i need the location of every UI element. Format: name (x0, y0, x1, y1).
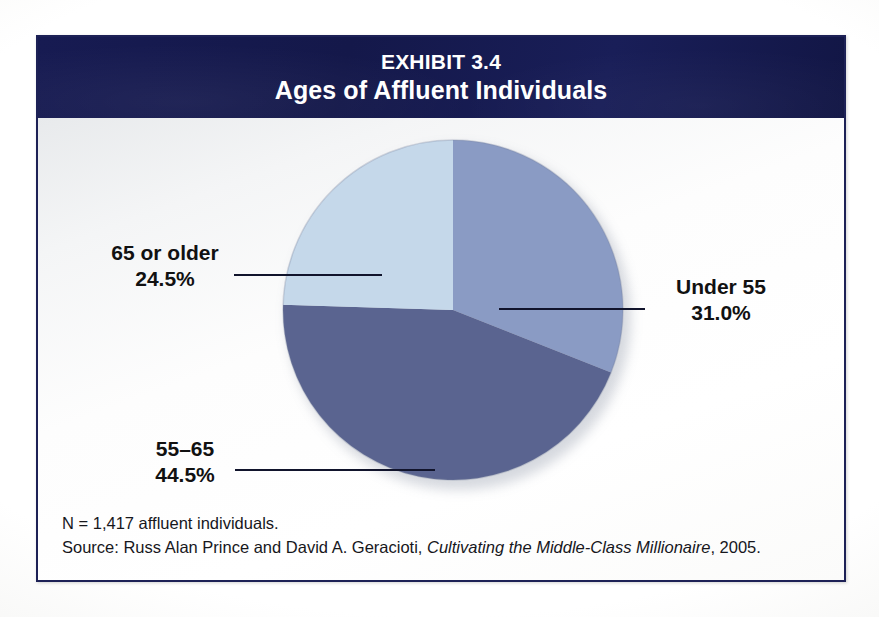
leader-line-under-55 (499, 308, 645, 310)
pie-slices-svg (281, 138, 625, 482)
footnote-sample-size: N = 1,417 affluent individuals. (62, 512, 832, 536)
footnote-source-prefix: Source: Russ Alan Prince and David A. Ge… (62, 538, 427, 556)
exhibit-body: 65 or older 24.5% Under 55 31.0% 55–65 4… (38, 118, 844, 580)
pie-graphic (281, 138, 625, 482)
footnote-source: Source: Russ Alan Prince and David A. Ge… (62, 536, 832, 560)
pie-slice-65-or-older (283, 140, 453, 310)
pie-label-65-or-older-value: 24.5% (90, 266, 240, 292)
pie-chart: 65 or older 24.5% Under 55 31.0% 55–65 4… (38, 118, 844, 518)
pie-label-65-or-older: 65 or older 24.5% (90, 240, 240, 291)
pie-label-55-65-value: 44.5% (132, 462, 238, 488)
footnote-source-suffix: , 2005. (710, 538, 760, 556)
pie-label-under-55-name: Under 55 (676, 275, 766, 298)
exhibit-title: Ages of Affluent Individuals (275, 76, 607, 105)
footnotes: N = 1,417 affluent individuals. Source: … (62, 512, 832, 560)
leader-line-65-or-older (234, 274, 382, 276)
exhibit-figure-frame: EXHIBIT 3.4 Ages of Affluent Individuals (36, 35, 846, 582)
pie-label-55-65-name: 55–65 (156, 437, 214, 460)
leader-line-55-65 (235, 469, 435, 471)
pie-label-65-or-older-name: 65 or older (111, 241, 218, 264)
pie-label-under-55-value: 31.0% (646, 300, 796, 326)
pie-label-55-65: 55–65 44.5% (132, 436, 238, 487)
footnote-source-book-title: Cultivating the Middle-Class Millionaire (427, 538, 710, 556)
exhibit-number: EXHIBIT 3.4 (381, 50, 501, 74)
exhibit-header-bar: EXHIBIT 3.4 Ages of Affluent Individuals (38, 37, 844, 118)
pie-label-under-55: Under 55 31.0% (646, 274, 796, 325)
